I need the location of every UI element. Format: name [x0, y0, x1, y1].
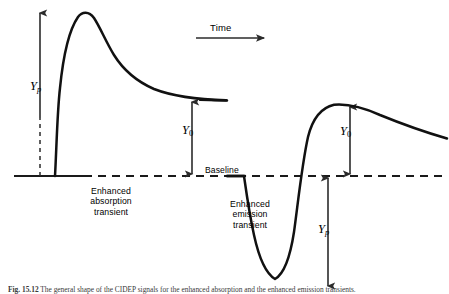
- yp-right-symbol-base: Y: [318, 222, 325, 236]
- time-axis-label: Time: [210, 22, 232, 33]
- enhanced-absorption-label: Enhanced absorption transient: [57, 186, 165, 217]
- y0-left-symbol-base: Y: [182, 123, 189, 137]
- y0-left-symbol-sub: 0: [189, 128, 193, 138]
- yp-left-symbol: Yp: [30, 79, 41, 94]
- y0-left-symbol: Y0: [182, 123, 193, 138]
- y0-right-symbol-base: Y: [340, 124, 347, 138]
- yp-left-symbol-sub: p: [37, 84, 41, 94]
- absorption-plateau: [200, 100, 227, 101]
- enhanced-emission-curve: [227, 105, 447, 279]
- enhanced-emission-label: Enhanced emission transient: [196, 199, 304, 230]
- figure-caption-text: The general shape of the CIDEP signals f…: [39, 285, 356, 294]
- baseline-label: Baseline: [205, 165, 239, 175]
- y0-right-symbol: Y0: [340, 124, 351, 139]
- y0-right-symbol-sub: 0: [347, 129, 351, 139]
- yp-right-symbol: Yp: [318, 222, 329, 237]
- figure-caption-number: Fig. 15.12: [8, 285, 39, 294]
- figure-caption: Fig. 15.12 The general shape of the CIDE…: [8, 285, 444, 294]
- figure-plot: [0, 0, 449, 294]
- yp-right-symbol-sub: p: [325, 227, 329, 237]
- yp-left-symbol-base: Y: [30, 79, 37, 93]
- figure-root: Time Baseline Enhanced absorption transi…: [0, 0, 449, 294]
